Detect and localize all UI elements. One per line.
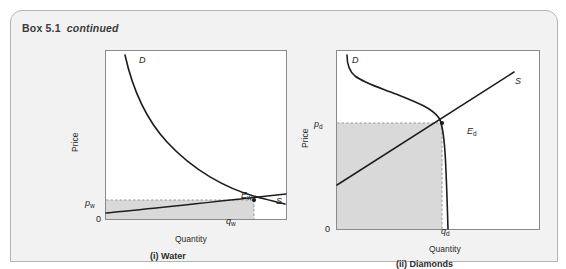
quantity-tick-subscript-diamonds: d	[446, 230, 450, 237]
supply-curve-label-diamonds: S	[515, 76, 521, 86]
price-tick-label-diamonds: pd	[314, 119, 323, 129]
y-axis-title-diamonds: Price	[300, 129, 310, 148]
quantity-tick-label-diamonds: qd	[441, 226, 450, 236]
plot-svg-diamonds	[336, 50, 540, 230]
equilibrium-subscript-water: w	[247, 194, 252, 201]
x-axis-title-water: Quantity	[175, 234, 207, 244]
box-title-label: Box 5.1	[22, 22, 61, 34]
equilibrium-point-water	[252, 198, 256, 202]
x-axis-title-diamonds: Quantity	[429, 244, 461, 254]
y-axis-title-water: Price	[70, 133, 80, 152]
price-tick-subscript-water: w	[90, 202, 95, 209]
panel-caption-diamonds: (ii) Diamonds	[396, 259, 453, 269]
demand-curve-label-diamonds: D	[352, 55, 359, 65]
price-tick-label-water: pw	[85, 198, 95, 208]
equilibrium-label-diamonds: Ed	[467, 126, 477, 136]
supply-curve-label-water: S	[276, 196, 282, 206]
quantity-tick-subscript-water: w	[231, 220, 236, 227]
origin-label-water: 0	[96, 214, 101, 224]
plot-svg-water	[105, 50, 287, 220]
demand-curve-water	[125, 55, 285, 204]
equilibrium-subscript-diamonds: d	[473, 130, 477, 137]
shaded-expenditure-diamonds	[337, 123, 442, 229]
panel-caption-water: (i) Water	[150, 251, 186, 261]
demand-curve-label-water: D	[139, 55, 146, 65]
equilibrium-label-water: Ew	[241, 190, 252, 200]
equilibrium-point-diamonds	[440, 121, 444, 125]
quantity-tick-label-water: qw	[226, 216, 236, 226]
box-title-status: continued	[67, 22, 119, 34]
figure-root: Box 5.1continued Price Quantity 0 pw qw …	[0, 0, 566, 269]
price-tick-subscript-diamonds: d	[319, 123, 323, 130]
chart-panel-diamonds: Price Quantity 0 pd qd D S Ed (ii) Diamo…	[292, 44, 540, 262]
box-title: Box 5.1continued	[22, 22, 119, 34]
chart-panel-water: Price Quantity 0 pw qw D S Ew (i) Water	[56, 44, 288, 262]
origin-label-diamonds: 0	[325, 224, 330, 234]
